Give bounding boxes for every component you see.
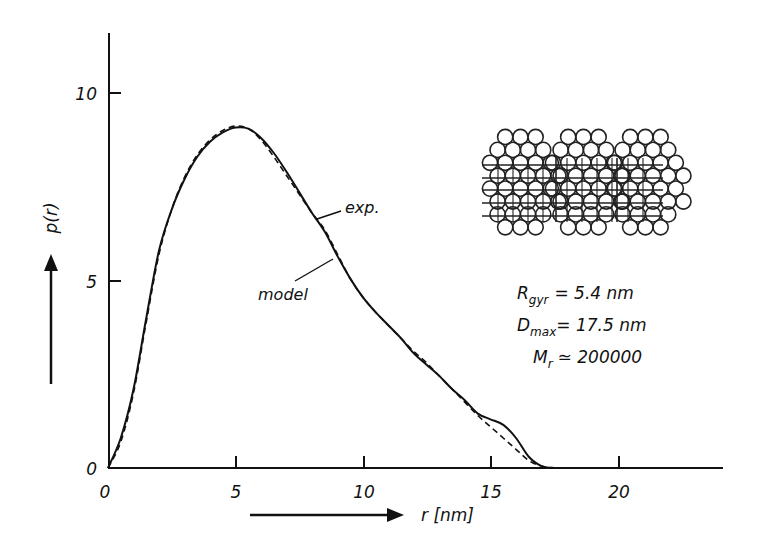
sphere-circle	[623, 220, 638, 235]
dmax-text: Dmax= 17.5 nm	[517, 315, 647, 339]
sphere-circle	[638, 220, 653, 235]
x-tick-label-5: 5	[231, 482, 242, 502]
dmax-value: = 17.5 nm	[556, 315, 646, 335]
rgyr-text: Rgyr= 5.4 nm	[517, 283, 634, 307]
sphere-model-inset	[482, 129, 691, 235]
exp-leader-line	[317, 211, 341, 219]
mr-value: ≃ 200000	[558, 347, 643, 367]
sphere-circle	[676, 194, 691, 209]
y-tick-label-10: 10	[75, 84, 97, 104]
sphere-circle	[513, 220, 528, 235]
sphere-circle	[576, 220, 591, 235]
x-tick-label-0: 0	[100, 482, 111, 502]
x-tick-label-10: 10	[353, 482, 375, 502]
x-tick-label-20: 20	[608, 482, 630, 502]
model-leader-line	[295, 259, 333, 281]
rgyr-symbol: R	[517, 283, 529, 303]
dmax-symbol: D	[517, 315, 530, 335]
model-label: model	[258, 285, 308, 304]
x-axis-arrow-head-icon	[387, 508, 404, 522]
y-tick-label-0: 0	[86, 459, 97, 479]
y-tick-label-5: 5	[86, 272, 97, 292]
axes	[108, 33, 723, 469]
sphere-circle	[653, 220, 668, 235]
mr-symbol: M	[533, 347, 548, 367]
y-axis-label-group: p(r)	[41, 202, 61, 384]
sphere-circle	[591, 220, 606, 235]
rgyr-value: = 5.4 nm	[554, 283, 633, 303]
pair-distribution-chart: 10 5 0 0 5 10 15 20 p(r) r [nm] exp. mod…	[0, 0, 758, 548]
sphere-circle	[561, 220, 576, 235]
mr-subscript: r	[548, 357, 554, 371]
parameters: Rgyr= 5.4 nm Dmax= 17.5 nm Mr≃ 200000	[517, 283, 647, 371]
sphere-circle	[498, 220, 513, 235]
model-curve	[108, 126, 554, 468]
curve-annotations: exp. model	[258, 198, 380, 304]
x-tick-label-15: 15	[480, 482, 502, 502]
x-axis-label-group: r [nm]	[250, 505, 474, 525]
sphere-circle	[528, 220, 543, 235]
y-axis-arrow-head-icon	[44, 254, 58, 271]
dmax-subscript: max	[530, 325, 557, 339]
y-axis-label: p(r)	[41, 202, 61, 234]
x-axis-label: r [nm]	[421, 505, 474, 525]
rgyr-subscript: gyr	[529, 293, 550, 307]
exp-label: exp.	[345, 198, 380, 217]
mr-text: Mr≃ 200000	[533, 347, 642, 371]
